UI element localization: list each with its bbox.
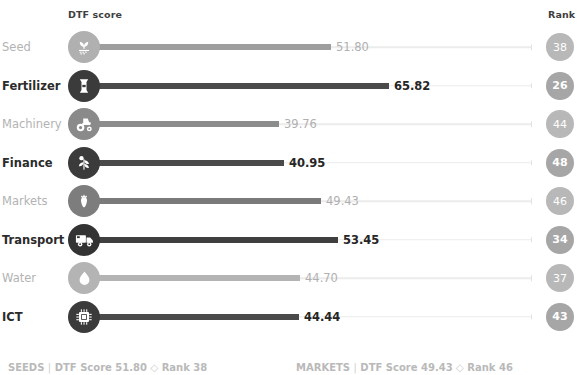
chart-row[interactable]: Fertilizer65.8226 (0, 67, 580, 105)
value-label: 40.95 (289, 156, 325, 170)
category-label: Markets (2, 194, 48, 208)
value-label: 65.82 (394, 79, 430, 93)
value-label: 51.80 (336, 40, 369, 54)
rank-badge[interactable]: 44 (546, 110, 574, 138)
water-drop-icon[interactable] (68, 262, 100, 294)
value-label: 44.44 (304, 310, 340, 324)
tractor-icon[interactable] (68, 108, 100, 140)
value-bar[interactable] (88, 314, 299, 320)
rank-badge[interactable]: 34 (546, 226, 574, 254)
column-header-dtf-score: DTF score (68, 9, 122, 20)
chart-row[interactable]: Machinery39.7644 (0, 105, 580, 143)
footer-right-score: DTF Score 49.43 (360, 362, 452, 373)
carrot-icon[interactable] (68, 185, 100, 217)
category-label: Finance (2, 156, 53, 170)
footer-item-seeds: SEEDS | DTF Score 51.80 ◇ Rank 38 (8, 362, 207, 373)
chart-row[interactable]: Seed51.8038 (0, 28, 580, 66)
category-label: Fertilizer (2, 79, 60, 93)
footer-left-rank: Rank 38 (162, 362, 208, 373)
footer-ticker: SEEDS | DTF Score 51.80 ◇ Rank 38 MARKET… (0, 362, 580, 375)
category-label: Transport (2, 233, 64, 247)
rank-badge[interactable]: 37 (546, 264, 574, 292)
value-bar[interactable] (88, 121, 279, 127)
chart-row[interactable]: Finance40.9548 (0, 144, 580, 182)
category-label: Seed (2, 40, 31, 54)
rank-badge[interactable]: 43 (546, 303, 574, 331)
rank-badge[interactable]: 38 (546, 33, 574, 61)
finance-plant-icon[interactable] (68, 147, 100, 179)
rank-badge[interactable]: 48 (546, 149, 574, 177)
value-bar[interactable] (88, 83, 389, 89)
rank-badge[interactable]: 46 (546, 187, 574, 215)
footer-left-sep: | (48, 362, 51, 373)
column-header-rank: Rank (548, 9, 575, 20)
value-label: 44.70 (305, 271, 338, 285)
chart-row[interactable]: ICT44.4443 (0, 298, 580, 336)
value-label: 39.76 (284, 117, 317, 131)
value-bar[interactable] (88, 160, 284, 166)
chart-row[interactable]: Markets49.4346 (0, 182, 580, 220)
value-label: 49.43 (326, 194, 359, 208)
value-bar[interactable] (88, 44, 331, 50)
category-label: Water (2, 271, 36, 285)
value-bar[interactable] (88, 237, 338, 243)
dtf-score-chart: DTF score Rank Seed51.8038Fertilizer65.8… (0, 0, 580, 375)
footer-left-diamond-icon: ◇ (150, 362, 158, 373)
footer-right-diamond-icon: ◇ (456, 362, 464, 373)
footer-right-sep: | (353, 362, 356, 373)
category-label: ICT (2, 310, 23, 324)
value-bar[interactable] (88, 275, 300, 281)
footer-item-markets: MARKETS | DTF Score 49.43 ◇ Rank 46 (296, 362, 513, 373)
value-label: 53.45 (343, 233, 379, 247)
value-bar[interactable] (88, 198, 321, 204)
fertilizer-bag-icon[interactable] (68, 70, 100, 102)
footer-left-name: SEEDS (8, 362, 44, 373)
seedling-icon[interactable] (68, 31, 100, 63)
chart-row[interactable]: Transport53.4534 (0, 221, 580, 259)
footer-right-name: MARKETS (296, 362, 350, 373)
category-label: Machinery (2, 117, 62, 131)
chart-row[interactable]: Water44.7037 (0, 259, 580, 297)
footer-left-score: DTF Score 51.80 (55, 362, 147, 373)
truck-icon[interactable] (68, 224, 100, 256)
rank-badge[interactable]: 26 (546, 72, 574, 100)
chip-icon[interactable] (68, 301, 100, 333)
footer-right-rank: Rank 46 (467, 362, 513, 373)
